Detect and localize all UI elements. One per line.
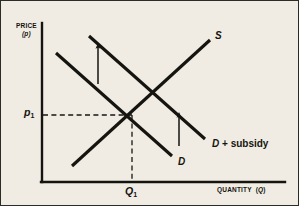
curve-lines — [56, 36, 210, 166]
demand-plus-subsidy-label: D + subsidy — [212, 139, 268, 150]
supply-curve-label-symbol: S — [215, 30, 222, 41]
diagram-canvas — [1, 1, 299, 206]
demand-plus-subsidy-suffix: + subsidy — [219, 138, 268, 149]
quantity-tick-label: Q1 — [125, 186, 137, 197]
supply-curve — [72, 40, 210, 166]
price-tick-label: p1 — [24, 107, 34, 118]
demand-curve-label-symbol: D — [178, 156, 185, 167]
supply-curve-label: S — [215, 31, 222, 42]
quantity-tick-subscript: 1 — [133, 191, 137, 198]
quantity-tick-symbol: Q — [125, 185, 133, 197]
x-axis-title: QUANTITY (Q) — [217, 187, 266, 194]
price-tick-subscript: 1 — [30, 112, 34, 119]
demand-curve-label: D — [178, 157, 185, 168]
y-axis-title: PRICE (p) — [16, 23, 37, 38]
supply-demand-subsidy-figure: PRICE (p) QUANTITY (Q) S D D + subsidy p… — [0, 0, 299, 206]
y-axis-title-line1: PRICE — [16, 22, 37, 29]
x-axis-title-text: QUANTITY — [217, 186, 252, 193]
y-axis-unit: (p) — [16, 31, 37, 38]
demand-curve — [56, 53, 172, 156]
demand-plus-subsidy-curve — [89, 36, 205, 139]
